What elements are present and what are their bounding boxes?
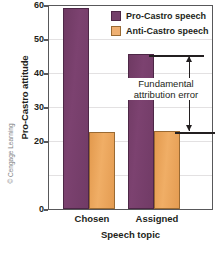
annotation-arrowhead-down (186, 125, 192, 131)
x-tick-label-chosen: Chosen (57, 213, 127, 224)
figure: Pro-Castro attitude 60 50 40 30 20 0 Fun… (0, 0, 224, 256)
annotation-leader-bottom (175, 132, 215, 134)
y-tick-label-50: 50 (22, 35, 44, 44)
annotation-text: Fundamental attribution error (127, 78, 205, 100)
x-axis-title: Speech topic (48, 229, 213, 240)
annotation-leader-top (149, 55, 204, 57)
x-tick-label-assigned: Assigned (122, 213, 192, 224)
y-tick-label-20: 20 (22, 137, 44, 146)
legend-swatch-icon-pro-castro (111, 11, 121, 21)
y-tick-label-0: 0 (22, 205, 44, 214)
bar-chosen-anti-castro (89, 132, 115, 209)
plot-area: Fundamental attribution error Pro-Castro… (48, 5, 213, 210)
annotation-line-2: attribution error (134, 89, 198, 100)
y-tick-label-60: 60 (22, 1, 44, 10)
legend-item-pro-castro: Pro-Castro speech (111, 10, 211, 22)
legend: Pro-Castro speech Anti-Castro speech (111, 10, 211, 40)
y-tick-label-30: 30 (22, 103, 44, 112)
annotation-arrowhead-up (186, 56, 192, 62)
bar-chosen-pro-castro (63, 8, 89, 209)
legend-label-anti-castro: Anti-Castro speech (126, 26, 209, 36)
bar-assigned-anti-castro (154, 131, 180, 209)
copyright-credit: © Cengage Learning (7, 118, 14, 190)
legend-item-anti-castro: Anti-Castro speech (111, 25, 211, 37)
annotation-line-1: Fundamental (138, 78, 193, 89)
legend-label-pro-castro: Pro-Castro speech (126, 11, 206, 21)
y-tick-label-40: 40 (22, 69, 44, 78)
legend-swatch-icon-anti-castro (111, 26, 121, 36)
